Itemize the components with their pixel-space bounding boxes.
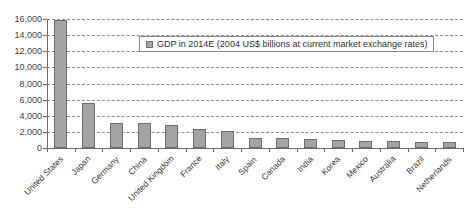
bar (82, 103, 95, 148)
x-tick-mark (102, 148, 103, 152)
x-axis-tick-label: Germany (89, 154, 121, 186)
x-tick-mark (158, 148, 159, 152)
bar (54, 20, 67, 148)
x-tick-mark (352, 148, 353, 152)
bar (221, 131, 234, 148)
y-axis-tick-label: 12,000 (14, 47, 42, 56)
legend-label: GDP in 2014E (2004 US$ billions at curre… (157, 39, 427, 49)
x-tick-mark (186, 148, 187, 152)
y-axis-tick-label: 8,000 (19, 79, 42, 88)
bar (443, 142, 456, 148)
x-tick-mark (241, 148, 242, 152)
x-tick-mark (75, 148, 76, 152)
y-axis-tick-label: 6,000 (19, 95, 42, 104)
x-tick-mark (463, 148, 464, 152)
y-axis-tick-label: 2,000 (19, 127, 42, 136)
legend-swatch-icon (146, 41, 153, 48)
x-axis-tick-label: Australia (367, 154, 397, 184)
x-axis-tick-label: United States (22, 154, 65, 197)
y-axis-tick-label: 4,000 (19, 111, 42, 120)
x-axis-tick-label: Japan (69, 154, 92, 177)
x-axis-tick-label: Spain (236, 154, 258, 176)
x-tick-mark (408, 148, 409, 152)
y-axis-tick-label: 16,000 (14, 15, 42, 24)
bar (276, 138, 289, 148)
x-tick-mark (130, 148, 131, 152)
x-tick-mark (435, 148, 436, 152)
y-axis-tick-label: 14,000 (14, 31, 42, 40)
x-axis-tick-label: India (295, 154, 315, 174)
x-tick-mark (47, 148, 48, 152)
chart-legend[interactable]: GDP in 2014E (2004 US$ billions at curre… (139, 36, 434, 52)
bar (110, 123, 123, 148)
x-tick-mark (324, 148, 325, 152)
y-axis-tick-label: 0 (37, 144, 42, 153)
x-tick-mark (380, 148, 381, 152)
bar (165, 125, 178, 148)
bar (249, 138, 262, 148)
gridline (47, 148, 463, 149)
bar (193, 129, 206, 148)
x-axis-tick-label: Canada (259, 154, 287, 182)
x-axis-tick-label: France (178, 154, 204, 180)
x-tick-mark (269, 148, 270, 152)
x-axis-tick-label: Brazil (404, 154, 426, 176)
bar (138, 123, 151, 148)
bar (304, 139, 317, 148)
x-axis-tick-label: China (126, 154, 149, 177)
bar (332, 140, 345, 148)
x-tick-mark (213, 148, 214, 152)
x-tick-mark (297, 148, 298, 152)
bar (359, 141, 372, 148)
gdp-bar-chart: 16,00014,00012,00010,0008,0006,0004,0002… (0, 0, 472, 223)
x-axis-tick-label: Italy (213, 154, 231, 172)
y-axis-tick-label: 10,000 (14, 63, 42, 72)
bar (415, 142, 428, 148)
bar (387, 141, 400, 148)
x-axis-tick-label: Korea (319, 154, 342, 177)
